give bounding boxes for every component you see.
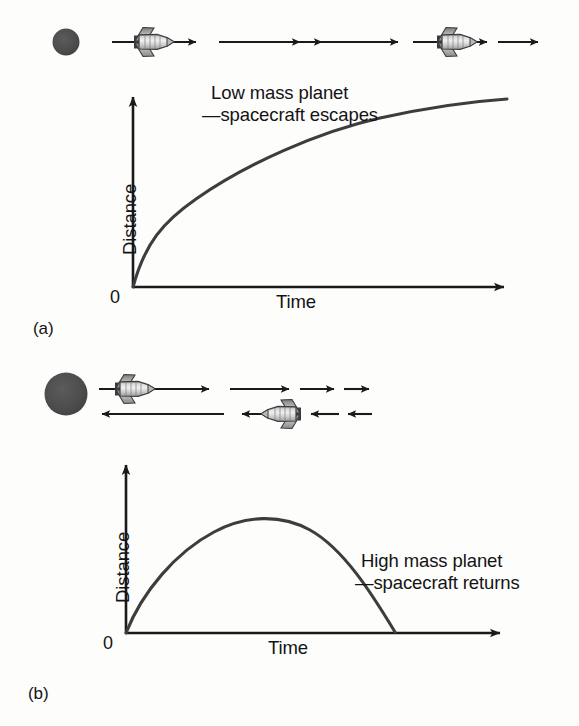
spacecraft-icon bbox=[437, 28, 477, 57]
panel-b-origin-label: 0 bbox=[103, 633, 113, 654]
panel-b-chart bbox=[126, 465, 500, 633]
panel-b-y-axis-label: Distance bbox=[112, 532, 134, 603]
spacecraft-icon bbox=[134, 28, 174, 57]
escape-velocity-figure: Low mass planet —spacecraft escapes Dist… bbox=[0, 0, 579, 726]
planet-icon bbox=[45, 373, 88, 416]
panel-a-origin-label: 0 bbox=[110, 287, 120, 308]
spacecraft-icon bbox=[115, 375, 155, 404]
panel-a-caption: (a) bbox=[33, 319, 53, 339]
panel-b-x-axis-label: Time bbox=[268, 637, 308, 659]
panel-a-annotation-line2: —spacecraft escapes bbox=[202, 104, 378, 126]
panel-a-x-axis-label: Time bbox=[276, 291, 316, 313]
spacecraft-icon bbox=[261, 400, 301, 429]
panel-a-scene bbox=[53, 28, 539, 57]
distance-curve-escape bbox=[133, 99, 507, 287]
panel-b-scene bbox=[45, 373, 373, 429]
panel-a-y-axis-label: Distance bbox=[119, 184, 141, 255]
panel-b-annotation-line1: High mass planet bbox=[361, 550, 502, 572]
panel-b-annotation-line2: —spacecraft returns bbox=[355, 572, 520, 594]
planet-icon bbox=[53, 29, 80, 56]
panel-a-annotation-line1: Low mass planet bbox=[211, 82, 348, 104]
panel-b-caption: (b) bbox=[28, 684, 48, 704]
